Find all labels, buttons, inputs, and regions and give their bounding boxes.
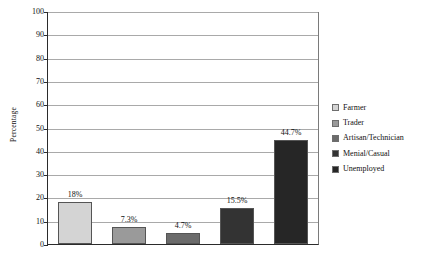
legend-label: Menial/Casual [343, 150, 390, 158]
legend-swatch-icon [332, 135, 339, 142]
plot-area: 18%7.3%4.7%15.5%44.7% [47, 12, 319, 245]
y-axis-tick-label: 0 [40, 241, 44, 249]
y-axis-title-text: Percentage [9, 107, 18, 142]
legend-label: Artisan/Technician [343, 134, 404, 142]
y-axis-tick-label: 20 [36, 194, 44, 202]
bar-chart: Percentage 0102030405060708090100 18%7.3… [0, 0, 423, 268]
y-axis-tick-label: 90 [36, 31, 44, 39]
bar[interactable] [112, 227, 146, 244]
y-axis-tick-label: 60 [36, 101, 44, 109]
bar-slot: 7.3% [102, 12, 156, 244]
legend-item[interactable]: Farmer [332, 100, 422, 115]
y-axis-tick-label: 100 [32, 8, 44, 16]
legend-label: Trader [343, 119, 364, 127]
bar-value-label: 4.7% [175, 222, 192, 230]
bar-slot: 44.7% [264, 12, 318, 244]
legend-label: Farmer [343, 104, 366, 112]
tick-mark [44, 245, 48, 246]
bar-slot: 18% [48, 12, 102, 244]
legend-swatch-icon [332, 120, 339, 127]
bar-value-label: 7.3% [121, 216, 138, 224]
legend-item[interactable]: Artisan/Technician [332, 131, 422, 146]
bar-value-label: 15.5% [227, 197, 248, 205]
gridline [48, 245, 318, 246]
y-axis-tick-label: 30 [36, 171, 44, 179]
bar[interactable] [58, 202, 92, 244]
y-axis-tick-label: 50 [36, 125, 44, 133]
legend-item[interactable]: Unemployed [332, 162, 422, 177]
bar-value-label: 18% [68, 191, 83, 199]
legend-swatch-icon [332, 104, 339, 111]
legend-label: Unemployed [343, 165, 384, 173]
legend-swatch-icon [332, 150, 339, 157]
bar-slot: 15.5% [210, 12, 264, 244]
bar[interactable] [274, 140, 308, 244]
y-axis-title: Percentage [6, 0, 20, 248]
legend-item[interactable]: Menial/Casual [332, 146, 422, 161]
bar-value-label: 44.7% [281, 129, 302, 137]
bar-slot: 4.7% [156, 12, 210, 244]
y-axis-tick-label: 10 [36, 218, 44, 226]
legend: FarmerTraderArtisan/TechnicianMenial/Cas… [332, 100, 422, 177]
y-axis-tick-label: 80 [36, 55, 44, 63]
legend-swatch-icon [332, 166, 339, 173]
y-axis-tick-label: 40 [36, 148, 44, 156]
bar[interactable] [166, 233, 200, 244]
bars-layer: 18%7.3%4.7%15.5%44.7% [48, 12, 318, 244]
bar[interactable] [220, 208, 254, 244]
legend-item[interactable]: Trader [332, 115, 422, 130]
y-axis-tick-labels: 0102030405060708090100 [20, 12, 44, 245]
y-axis-tick-label: 70 [36, 78, 44, 86]
